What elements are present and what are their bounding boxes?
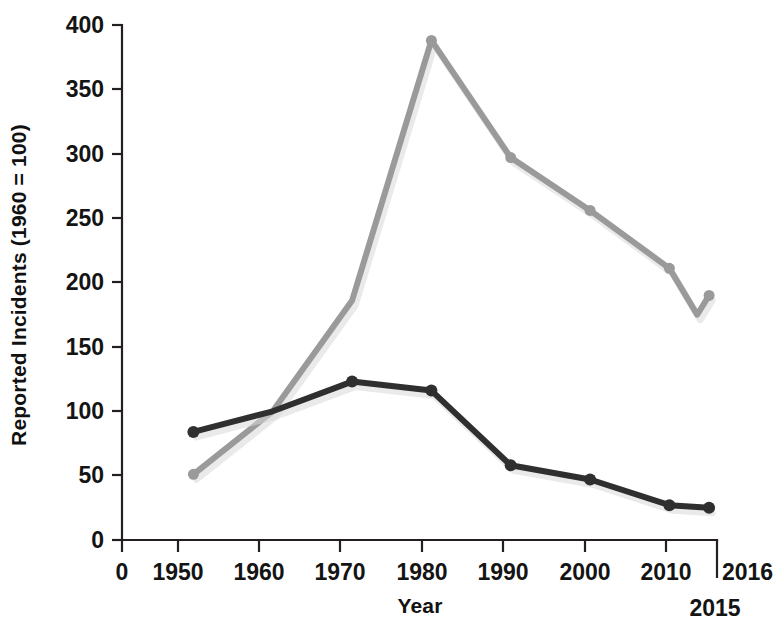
- data-point-1990: [505, 459, 517, 471]
- chart-container: Reported Incidents (1960 = 100) 0 50 100…: [0, 0, 773, 630]
- chart-plot-area: Reported Incidents (1960 = 100) 0 50 100…: [0, 0, 773, 630]
- data-point-1980: [425, 385, 437, 397]
- x-tick-label-2010: 2010: [640, 559, 691, 585]
- series-dark: [187, 376, 715, 514]
- x-tick-label-1990: 1990: [477, 559, 528, 585]
- data-point-1950: [188, 469, 199, 480]
- y-tick-label-300: 300: [66, 141, 104, 167]
- y-tick-label-400: 400: [66, 12, 104, 38]
- y-tick-label-100: 100: [66, 398, 104, 424]
- data-point-2000: [584, 474, 596, 486]
- y-tick-label-250: 250: [66, 205, 104, 231]
- x-tick-label-1980: 1980: [396, 559, 447, 585]
- x-tick-label-1970: 1970: [314, 559, 365, 585]
- data-point-1990: [505, 152, 516, 163]
- y-axis-title: Reported Incidents (1960 = 100): [7, 124, 30, 446]
- data-point-2015: [703, 502, 715, 514]
- x-tick-label-2015: 2015: [689, 595, 740, 621]
- x-tick-label-origin: 0: [116, 559, 129, 585]
- y-tick-label-350: 350: [66, 76, 104, 102]
- y-tick-label-0: 0: [91, 527, 104, 553]
- x-axis-title: Year: [397, 594, 442, 617]
- data-point-1980: [426, 35, 437, 46]
- data-point-2015: [704, 290, 715, 301]
- y-tick-label-50: 50: [78, 462, 104, 488]
- dark-series-line: [193, 382, 709, 508]
- data-point-1970: [346, 376, 358, 388]
- y-tick-label-200: 200: [66, 269, 104, 295]
- y-tick-label-150: 150: [66, 334, 104, 360]
- x-tick-label-2000: 2000: [559, 559, 610, 585]
- x-tick-label-2016: 2016: [722, 559, 773, 585]
- data-point-2010: [664, 263, 675, 274]
- data-point-2000: [585, 205, 596, 216]
- data-point-2010: [663, 499, 675, 511]
- x-tick-label-1960: 1960: [233, 559, 284, 585]
- data-point-1950: [187, 426, 199, 438]
- x-tick-label-1950: 1950: [152, 559, 203, 585]
- line-chart-figure: Reported Incidents (1960 = 100) 0 50 100…: [0, 0, 773, 630]
